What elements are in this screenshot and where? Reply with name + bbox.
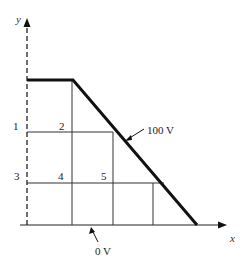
x-axis-label: x [229,232,235,244]
node-label-3: 3 [14,170,20,182]
node-label-4: 4 [58,170,64,182]
y-axis-arrow-icon [24,18,31,27]
node-label-1: 1 [13,120,19,132]
potential-grid-diagram: y x 1 2 3 4 5 100 V [0,0,243,266]
boundary-100v-label: 100 V [147,124,174,136]
callout-100v [125,129,144,141]
boundary-0v-label: 0 V [95,245,111,257]
x-axis-arrow-icon [218,222,227,229]
node-label-2: 2 [59,120,65,132]
callout-arrow-icon [125,135,132,141]
callout-arrow-icon [89,227,95,234]
grid-lines [27,80,164,225]
node-label-5: 5 [101,170,107,182]
y-axis [24,18,31,225]
diagram-svg: y x 1 2 3 4 5 100 V [0,0,243,266]
boundary-100v-line [27,80,197,225]
callout-0v [89,227,98,242]
y-axis-label: y [15,13,21,25]
